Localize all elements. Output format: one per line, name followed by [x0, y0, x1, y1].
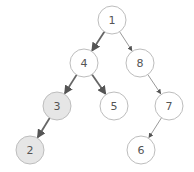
- edge-1-to-8: [120, 32, 132, 51]
- node-label: 5: [111, 100, 118, 113]
- edge-8-to-7: [148, 75, 161, 94]
- node-label: 3: [54, 100, 61, 113]
- tree-node-8[interactable]: 8: [126, 49, 154, 77]
- node-label: 1: [109, 14, 116, 27]
- tree-node-7[interactable]: 7: [155, 92, 183, 120]
- node-label: 2: [27, 144, 34, 157]
- edge-7-to-6: [149, 118, 161, 138]
- tree-node-1[interactable]: 1: [98, 6, 126, 34]
- edge-4-to-3: [65, 75, 77, 93]
- node-label: 6: [138, 144, 145, 157]
- node-label: 8: [137, 57, 144, 70]
- node-label: 7: [166, 100, 173, 113]
- edge-1-to-4: [92, 32, 104, 51]
- tree-node-2[interactable]: 2: [16, 136, 44, 164]
- edge-layer: [38, 32, 162, 138]
- edge-3-to-2: [38, 118, 50, 137]
- tree-node-3[interactable]: 3: [43, 92, 71, 120]
- edge-4-to-5: [92, 74, 105, 93]
- tree-node-4[interactable]: 4: [70, 49, 98, 77]
- tree-node-5[interactable]: 5: [100, 92, 128, 120]
- tree-node-6[interactable]: 6: [127, 136, 155, 164]
- node-label: 4: [81, 57, 88, 70]
- tree-diagram: 14835726: [0, 0, 194, 172]
